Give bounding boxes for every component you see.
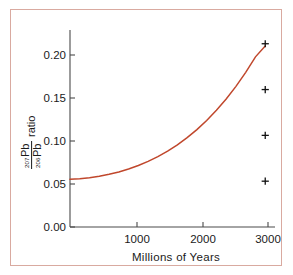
sample-marker bbox=[262, 40, 269, 47]
x-axis-title: Millions of Years bbox=[132, 251, 220, 263]
sample-marker bbox=[262, 86, 269, 93]
y-tick-label-1: 0.05 bbox=[44, 178, 66, 190]
y-tick-label-2: 0.10 bbox=[44, 135, 66, 147]
x-tick-label-1: 2000 bbox=[190, 233, 216, 245]
y-tick-label-4: 0.20 bbox=[44, 49, 66, 61]
sample-marker bbox=[262, 132, 269, 139]
chart-plot-area: 0.00 0.05 0.10 0.15 0.20 1000 2000 3000 … bbox=[0, 0, 293, 275]
x-tick-label-0: 1000 bbox=[124, 233, 150, 245]
y-axis-title-denominator-base: Pb bbox=[31, 144, 43, 157]
y-axis-title-numerator-base: Pb bbox=[19, 144, 31, 157]
growth-curve-line bbox=[70, 46, 265, 179]
y-axis-title-numerator-superscript: 207 bbox=[23, 157, 30, 168]
chart-figure: 0.00 0.05 0.10 0.15 0.20 1000 2000 3000 … bbox=[0, 0, 293, 275]
y-tick-label-0: 0.00 bbox=[44, 221, 66, 233]
y-axis-title-suffix: ratio bbox=[25, 116, 37, 137]
y-axis-title: 207 Pb 206 Pb ratio bbox=[19, 116, 43, 169]
y-axis-title-denominator-superscript: 206 bbox=[34, 157, 41, 168]
sample-marker-group bbox=[262, 40, 269, 185]
y-tick-label-3: 0.15 bbox=[44, 92, 66, 104]
sample-marker bbox=[262, 178, 269, 185]
x-tick-label-2: 3000 bbox=[255, 233, 281, 245]
